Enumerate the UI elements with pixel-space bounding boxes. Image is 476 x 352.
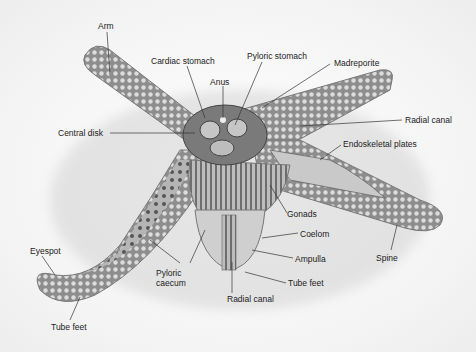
label-eyespot: Eyespot <box>30 246 61 256</box>
diagram-canvas: Arm Cardiac stomach Anus Pyloric stomach… <box>0 0 476 352</box>
label-spine: Spine <box>376 253 398 263</box>
label-ampulla: Ampulla <box>295 254 326 264</box>
cardiac-stomach-lobe <box>200 121 220 139</box>
label-radial-canal-bottom: Radial canal <box>227 294 274 304</box>
label-arm: Arm <box>98 21 114 31</box>
label-tube-feet-bottom: Tube feet <box>288 278 324 288</box>
label-tube-feet-left: Tube feet <box>51 322 87 332</box>
stomach-lower-lobe <box>210 140 234 156</box>
label-central-disk: Central disk <box>58 128 103 138</box>
label-endoskeletal-plates: Endoskeletal plates <box>343 139 417 149</box>
label-madreporite: Madreporite <box>334 58 379 68</box>
label-pyloric-caecum: Pyloric caecum <box>156 268 186 288</box>
pyloric-stomach-lobe <box>227 119 247 137</box>
radial-canal-bottom <box>222 215 236 270</box>
label-anus: Anus <box>210 77 229 87</box>
label-coelom: Coelom <box>300 229 329 239</box>
label-radial-canal-right: Radial canal <box>405 115 452 125</box>
label-gonads: Gonads <box>287 209 317 219</box>
label-cardiac-stomach: Cardiac stomach <box>151 56 215 66</box>
label-pyloric-stomach: Pyloric stomach <box>247 51 307 61</box>
